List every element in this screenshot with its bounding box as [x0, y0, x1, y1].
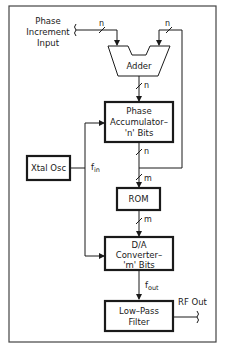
fin-label: fin	[91, 162, 100, 174]
rom-label: ROM	[129, 194, 149, 204]
input-bus-width-label: n	[99, 19, 104, 28]
svg-text:Phase: Phase	[35, 16, 60, 26]
xtal-osc-label: Xtal Osc	[31, 163, 67, 173]
svg-text:Input: Input	[37, 38, 60, 48]
phase-increment-input-label: Phase Increment Input	[26, 16, 70, 48]
feedback-bus-width-label: n	[165, 19, 170, 28]
accumulator-out-width-label: n	[144, 147, 149, 156]
svg-text:Phase: Phase	[126, 106, 151, 116]
svg-text:'n' Bits: 'n' Bits	[125, 128, 154, 138]
rom-in-width-label: m	[144, 174, 152, 183]
svg-text:Filter: Filter	[128, 317, 150, 327]
svg-text:D/A: D/A	[131, 240, 146, 250]
rf-out-brace-icon	[197, 311, 199, 323]
svg-text:Accumulator–: Accumulator–	[110, 117, 168, 127]
input-brace-icon	[75, 24, 77, 36]
svg-text:Low–Pass: Low–Pass	[119, 306, 159, 316]
fout-label: fout	[145, 280, 159, 292]
clock-to-accumulator-line	[85, 123, 104, 168]
rom-out-width-label: m	[144, 215, 152, 224]
adder-label: Adder	[126, 61, 152, 71]
svg-text:Converter–: Converter–	[116, 250, 163, 260]
adder-out-width-label: n	[144, 81, 149, 90]
input-bus-line	[76, 30, 117, 45]
clock-to-dac-line	[85, 168, 104, 256]
svg-text:'m' Bits: 'm' Bits	[123, 260, 155, 270]
svg-text:Increment: Increment	[26, 27, 70, 37]
rf-out-label: RF Out	[178, 297, 208, 307]
dds-block-diagram: Phase Increment Input n n Adder n Phase …	[0, 0, 225, 345]
